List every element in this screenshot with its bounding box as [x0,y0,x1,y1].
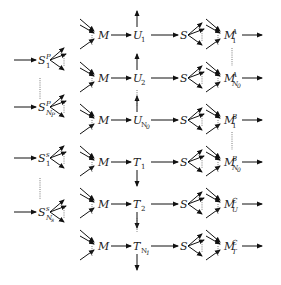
demand-market-3: MBN0 [223,155,241,173]
arrow [50,60,64,70]
terminal-node-5: TN1 [133,240,150,256]
svg-text:B: B [231,113,237,121]
svg-text:1: 1 [141,36,145,44]
source-node-2: Ss1 [38,151,50,168]
svg-text:s: s [46,151,50,159]
arrow [188,23,202,35]
demand-market-0: MA1 [223,28,237,45]
storage-node-2: S [180,114,188,127]
storage-node-5: S [180,240,188,253]
market-node-3: M [97,156,110,169]
svg-text:S: S [180,240,188,253]
market-node-5: M [97,240,110,253]
storage-node-1: S [180,72,188,85]
arrow [50,146,64,158]
svg-text:U: U [232,206,239,214]
svg-text:0: 0 [237,166,241,173]
svg-text:S: S [180,198,188,211]
svg-text:P: P [50,111,56,118]
arrow [188,78,202,88]
svg-text:C: C [232,239,238,247]
svg-text:0: 0 [237,82,241,89]
arrow [188,204,202,214]
svg-text:C: C [232,197,238,205]
arrow [188,246,202,256]
svg-text:1: 1 [146,249,150,256]
terminal-node-4: T2 [133,198,145,213]
arrow [188,66,202,78]
svg-text:2: 2 [141,205,145,213]
market-node-4: M [97,198,110,211]
arrow [188,162,202,172]
diagram-canvas: SP1SPNPSs1SsNsMU1SMU2SMUN0SMT1SMT2SMTN1S… [0,0,281,285]
arrow [188,108,202,120]
svg-text:1: 1 [46,62,50,70]
market-node-1: M [97,72,110,85]
demand-market-4: MCU [223,197,239,214]
svg-text:s: s [46,205,50,213]
arrow [50,200,64,212]
svg-text:1: 1 [232,37,236,45]
svg-text:S: S [38,54,46,67]
svg-text:A: A [231,71,237,79]
arrow [188,120,202,130]
unit-node-0: U1 [133,29,145,44]
svg-text:0: 0 [146,123,150,130]
svg-text:S: S [180,156,188,169]
svg-text:1: 1 [46,160,50,168]
svg-text:M: M [97,198,110,211]
arrow [50,95,64,107]
market-node-2: M [97,114,110,127]
storage-node-3: S [180,156,188,169]
demand-market-5: MCT [223,239,238,256]
svg-text:S: S [38,206,46,219]
supply-chain-diagram: SP1SPNPSs1SsNsMU1SMU2SMUN0SMT1SMT2SMTN1S… [0,0,281,285]
svg-text:1: 1 [232,122,236,130]
svg-text:M: M [97,156,110,169]
demand-market-1: MAN0 [223,71,241,89]
arrow [50,48,64,60]
arrow [50,158,64,168]
svg-text:1: 1 [141,163,145,171]
svg-text:S: S [38,101,46,114]
demand-market-2: MB1 [223,113,237,130]
source-node-3: SsNs [38,205,54,223]
market-node-0: M [97,29,110,42]
arrow [188,150,202,162]
svg-text:2: 2 [141,79,145,87]
svg-text:S: S [38,152,46,165]
svg-text:M: M [97,29,110,42]
arrow [188,35,202,45]
source-node-0: SP1 [38,53,51,70]
unit-node-1: U2 [133,72,145,87]
storage-node-0: S [180,29,188,42]
svg-text:s: s [51,216,54,223]
unit-node-2: UN0 [133,114,150,130]
storage-node-4: S [180,198,188,211]
arrow [188,192,202,204]
svg-text:M: M [97,240,110,253]
svg-text:T: T [232,248,238,256]
svg-text:S: S [180,114,188,127]
svg-text:M: M [97,72,110,85]
svg-text:S: S [180,72,188,85]
arrow [188,234,202,246]
svg-text:B: B [231,155,237,163]
svg-text:S: S [180,29,188,42]
svg-text:A: A [231,28,237,36]
terminal-node-3: T1 [133,156,145,171]
svg-text:M: M [97,114,110,127]
